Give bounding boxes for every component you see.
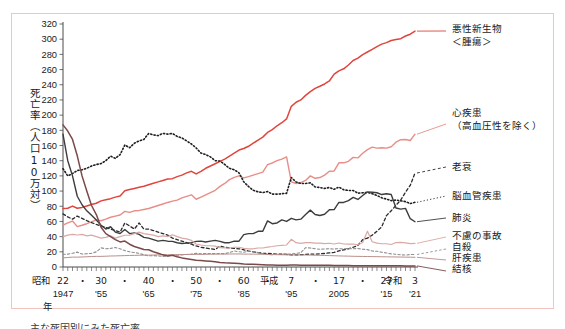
legend-label-8: 結核: [452, 263, 472, 274]
legend-leader-2: [417, 167, 446, 173]
x-tick-label-jp: 7: [288, 275, 294, 286]
legend-label-3: 脳血管疾患: [452, 190, 502, 201]
legend-label-1-line2: （高血圧性を除く）: [452, 120, 542, 131]
legend-label-0-line2: ＜腫瘍＞: [452, 36, 492, 47]
x-tick-label-jp: 22: [57, 275, 69, 286]
x-tick-label-western: '75: [190, 289, 202, 299]
x-tick-label-western: '21: [409, 289, 421, 299]
x-tick-label-jp: ・: [168, 275, 177, 286]
y-tick-label: 240: [41, 80, 57, 90]
x-tick-label-western: '95: [285, 289, 297, 299]
legend-leader-3: [417, 196, 446, 202]
x-tick-label-jp: ・: [215, 275, 224, 286]
legend-label-2: 老衰: [452, 161, 472, 172]
series-line-0: [63, 31, 415, 209]
axes-layer: [60, 22, 419, 271]
legend-leader-8: [417, 266, 446, 271]
legend-label-7: 肝疾患: [452, 252, 482, 263]
x-tick-label-jp: 3: [412, 275, 418, 286]
y-tick-label: 20: [47, 247, 57, 257]
legend-leader-6: [417, 249, 446, 255]
series-line-7: [63, 254, 415, 258]
legend-label-6: 自殺: [452, 241, 472, 252]
x-tick-label-western: 2005: [329, 289, 350, 299]
x-tick-label-jp: 40: [143, 275, 155, 286]
legend-leader-7: [417, 257, 446, 260]
x-tick-label-western: 1947: [53, 289, 74, 299]
y-tick-label: 160: [41, 141, 57, 151]
x-tick-label-western: '65: [143, 289, 155, 299]
x-tick-label-jp: ・: [311, 275, 320, 286]
x-era-label: 平成: [260, 275, 278, 286]
x-tick-label-jp: 50: [190, 275, 202, 286]
y-tick-label: 260: [41, 65, 57, 75]
legend-leader-5: [417, 237, 446, 243]
chart-stage: 0204060801001201401601802002202402602803…: [0, 0, 565, 329]
x-tick-label-jp: 17: [333, 275, 345, 286]
legend-label-0: 悪性新生物: [452, 23, 502, 34]
x-era-label: 令和: [384, 275, 402, 286]
y-tick-label: 200: [41, 110, 57, 120]
x-axis-title: 年: [43, 301, 52, 312]
caption-fragment: 主な死因別にみた死亡率: [30, 320, 140, 329]
x-tick-label-jp: ・: [78, 275, 87, 286]
x-tick-label-jp: 30: [95, 275, 107, 286]
y-tick-label: 280: [41, 50, 57, 60]
x-tick-label-jp: ・: [358, 275, 367, 286]
y-tick-label: 40: [47, 232, 57, 242]
legend-label-5: 不慮の事故: [452, 230, 502, 241]
x-tick-label-western: '15: [380, 289, 392, 299]
legend-label-4: 肺炎: [452, 212, 472, 223]
y-tick-label: 0: [52, 262, 57, 272]
series-layer: [63, 31, 415, 266]
series-line-3: [63, 133, 415, 203]
legend-label-1: 心疾患: [452, 107, 482, 118]
legend-layer: 悪性新生物＜腫瘍＞心疾患（高血圧性を除く）老衰脳血管疾患肺炎不慮の事故自殺肝疾患…: [417, 23, 542, 274]
y-tick-label: 100: [41, 186, 57, 196]
x-era-label: 昭和: [32, 275, 50, 286]
x-tick-label-jp: ・: [120, 275, 129, 286]
y-tick-label: 140: [41, 156, 57, 166]
y-tick-label: 180: [41, 126, 57, 136]
legend-leader-4: [417, 218, 446, 222]
series-line-1: [63, 134, 415, 226]
y-tick-label: 60: [47, 217, 57, 227]
y-tick-label: 80: [47, 202, 57, 212]
x-tick-label-western: '55: [95, 289, 107, 299]
legend-leader-1: [417, 124, 446, 134]
y-tick-label: 300: [41, 34, 57, 44]
x-tick-label-western: '85: [238, 289, 250, 299]
mortality-line-chart: 0204060801001201401601802002202402602803…: [0, 0, 565, 329]
y-tick-label: 220: [41, 95, 57, 105]
y-tick-label: 320: [41, 19, 57, 29]
x-tick-label-jp: 60: [238, 275, 250, 286]
y-tick-label: 120: [41, 171, 57, 181]
